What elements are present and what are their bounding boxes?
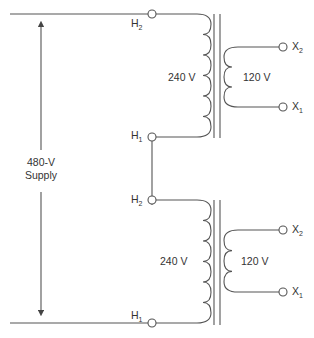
terminal-h2-top bbox=[148, 10, 156, 18]
primary-coil-bottom bbox=[197, 200, 211, 323]
secondary-coil-top bbox=[224, 47, 238, 107]
transformer-top: H2 H1 X2 X1 240 V 120 V bbox=[131, 10, 303, 143]
terminal-x1-top bbox=[279, 103, 287, 111]
terminal-h1-top bbox=[148, 133, 156, 141]
label-h2-bottom: H2 bbox=[131, 193, 143, 207]
primary-voltage-top: 240 V bbox=[168, 71, 195, 83]
label-x2-top: X2 bbox=[292, 40, 303, 54]
supply-label-line2: Supply bbox=[25, 169, 58, 181]
label-h1-bottom: H1 bbox=[131, 309, 143, 323]
terminal-x1-bottom bbox=[279, 288, 287, 296]
secondary-coil-bottom bbox=[224, 230, 238, 292]
terminal-x2-bottom bbox=[279, 226, 287, 234]
label-x1-top: X1 bbox=[292, 100, 303, 114]
secondary-voltage-top: 120 V bbox=[243, 71, 270, 83]
secondary-voltage-bottom: 120 V bbox=[241, 255, 268, 267]
label-h1-top: H1 bbox=[131, 129, 143, 143]
transformer-series-diagram: 480-V Supply H2 H1 X2 X1 240 V 120 V bbox=[0, 0, 314, 338]
supply-label-line1: 480-V bbox=[27, 156, 55, 168]
primary-voltage-bottom: 240 V bbox=[160, 255, 187, 267]
label-x2-bottom: X2 bbox=[292, 223, 303, 237]
label-h2-top: H2 bbox=[131, 17, 143, 31]
label-x1-bottom: X1 bbox=[292, 285, 303, 299]
terminal-h1-bottom bbox=[148, 319, 156, 327]
terminal-h2-bottom bbox=[148, 196, 156, 204]
transformer-bottom: H2 H1 X2 X1 240 V 120 V bbox=[131, 193, 303, 327]
terminal-x2-top bbox=[279, 43, 287, 51]
primary-coil-top bbox=[197, 14, 211, 137]
